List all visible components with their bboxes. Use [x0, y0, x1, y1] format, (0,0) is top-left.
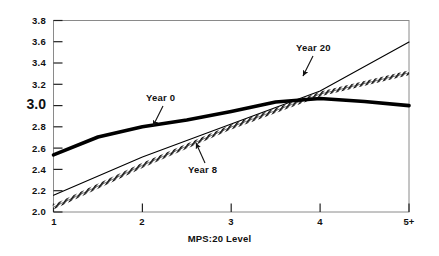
annotation-label-year-20: Year 20: [296, 42, 331, 53]
y-tick-label-3-0: 3.0: [2, 96, 46, 112]
y-tick-label-3-6: 3.6: [2, 36, 46, 47]
x-tick-label-3: 3: [211, 216, 251, 227]
y-tick-label-3-8: 3.8: [2, 15, 46, 26]
x-axis-ticks: [54, 204, 410, 213]
y-tick-label-3-4: 3.4: [2, 57, 46, 68]
annotation-label-year-0: Year 0: [146, 92, 175, 103]
series-line-year-20: [54, 42, 410, 195]
x-tick-label-5plus: 5+: [389, 216, 429, 227]
x-tick-label-2: 2: [122, 216, 162, 227]
annotation-arrow-year-20: [303, 56, 313, 76]
annotation-label-year-8: Year 8: [188, 164, 217, 175]
annotation-arrow-year-8: [196, 143, 205, 163]
x-tick-label-4: 4: [300, 216, 340, 227]
series-line-year-8: [54, 86, 232, 207]
y-tick-label-3-2: 3.2: [2, 79, 46, 90]
y-tick-label-2-4: 2.4: [2, 164, 46, 175]
x-axis-title: MPS:20 Level: [0, 233, 439, 244]
y-axis-ticks: [54, 21, 63, 213]
series-line-year-8-outline: [54, 73, 410, 207]
y-tick-label-2-2: 2.2: [2, 185, 46, 196]
y-tick-label-2-8: 2.8: [2, 121, 46, 132]
series-line-year-8-path: [54, 73, 410, 207]
x-tick-label-1: 1: [34, 216, 74, 227]
y-tick-label-2-6: 2.6: [2, 143, 46, 154]
chart-figure: 3.8 3.6 3.4 3.2 3.0 2.8 2.6 2.4 2.2 2.0 …: [0, 0, 439, 256]
